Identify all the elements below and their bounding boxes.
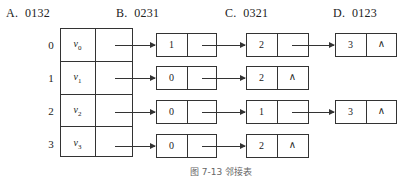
arrow-icon: [115, 112, 155, 113]
vertex-v2: v2: [60, 104, 95, 118]
vertex-index-1: 1: [46, 72, 56, 84]
option-b: B. 0231: [116, 6, 159, 21]
edge-value: 1: [246, 106, 277, 117]
row-divider: [60, 126, 133, 127]
arrow-icon: [202, 146, 245, 147]
node-divider: [187, 33, 188, 57]
arrow-icon: [115, 45, 155, 46]
arrow-icon: [202, 45, 245, 46]
option-a: A. 0132: [6, 6, 50, 21]
node-divider: [277, 33, 278, 57]
edge-value: 3: [335, 106, 366, 117]
null-pointer-icon: ∧: [366, 105, 397, 116]
vertex-v3: v3: [60, 137, 95, 151]
edge-value: 0: [156, 72, 187, 83]
edge-value: 0: [156, 106, 187, 117]
null-pointer-icon: ∧: [277, 71, 308, 82]
edge-value: 1: [156, 39, 187, 50]
figure-caption: 图 7-13 邻接表: [190, 165, 252, 177]
vertex-v1: v1: [60, 71, 95, 85]
edge-value: 0: [156, 140, 187, 151]
null-pointer-icon: ∧: [366, 38, 397, 49]
node-divider: [187, 100, 188, 124]
vertex-v0: v0: [60, 38, 95, 52]
arrow-icon: [292, 45, 334, 46]
edge-value: 3: [335, 39, 366, 50]
arrow-icon: [115, 146, 155, 147]
node-divider: [187, 66, 188, 90]
edge-value: 2: [246, 72, 277, 83]
option-d: D. 0123: [333, 6, 377, 21]
edge-value: 2: [246, 39, 277, 50]
vertex-index-2: 2: [46, 105, 56, 117]
vertex-index-3: 3: [46, 138, 56, 150]
edge-value: 2: [246, 140, 277, 151]
vertex-table-divider: [95, 28, 96, 157]
node-divider: [187, 134, 188, 158]
option-c: C. 0321: [225, 6, 268, 21]
arrow-icon: [202, 78, 245, 79]
node-divider: [277, 100, 278, 124]
arrow-icon: [115, 78, 155, 79]
arrow-icon: [292, 112, 334, 113]
row-divider: [60, 94, 133, 95]
arrow-icon: [202, 112, 245, 113]
row-divider: [60, 61, 133, 62]
null-pointer-icon: ∧: [277, 139, 308, 150]
vertex-index-0: 0: [46, 39, 56, 51]
